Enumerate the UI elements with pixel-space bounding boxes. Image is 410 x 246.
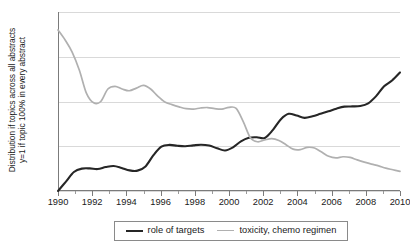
legend-entry[interactable]: toxicity, chemo regimen — [217, 226, 336, 235]
line-chart: Distribution if topics across all abstra… — [0, 0, 410, 246]
x-axis-tick-label: 2002 — [253, 198, 274, 207]
x-axis-tick — [126, 191, 127, 196]
x-axis-tick-label: 2006 — [321, 198, 342, 207]
legend-entry[interactable]: role of targets — [126, 226, 205, 235]
series-container — [58, 12, 400, 191]
y-axis-title-line-2: y=1 if topic 100% in every abstract — [17, 37, 27, 163]
x-axis-tick-minor — [144, 191, 145, 194]
legend-label: role of targets — [148, 226, 205, 235]
x-axis-tick-minor — [109, 191, 110, 194]
x-axis-tick — [161, 191, 162, 196]
x-axis-tick — [332, 191, 333, 196]
x-axis-tick-label: 1998 — [184, 198, 205, 207]
x-axis-tick — [92, 191, 93, 196]
x-axis-tick-label: 2008 — [355, 198, 376, 207]
x-axis-tick-minor — [315, 191, 316, 194]
x-axis-tick-label: 2004 — [287, 198, 308, 207]
x-axis-tick — [366, 191, 367, 196]
legend-swatch — [217, 230, 234, 231]
legend-swatch — [126, 230, 143, 232]
x-axis-tick-minor — [383, 191, 384, 194]
x-axis-tick-minor — [212, 191, 213, 194]
series-line — [58, 72, 400, 191]
x-axis-tick — [195, 191, 196, 196]
legend: role of targetstoxicity, chemo regimen — [114, 221, 348, 241]
x-axis-tick-label: 2000 — [219, 198, 240, 207]
x-axis-tick — [229, 191, 230, 196]
plot-area: 0.070.050.040.020.00 1990199219941996199… — [58, 12, 400, 191]
x-axis-tick — [297, 191, 298, 196]
x-axis-tick-minor — [280, 191, 281, 194]
x-axis-tick-label: 1994 — [116, 198, 137, 207]
y-axis-title: Distribution if topics across all abstra… — [1, 2, 33, 198]
x-axis-tick-label: 1992 — [82, 198, 103, 207]
legend-label: toxicity, chemo regimen — [239, 226, 336, 235]
x-axis-tick-minor — [349, 191, 350, 194]
x-axis-tick-label: 1990 — [48, 198, 69, 207]
x-axis-tick — [263, 191, 264, 196]
x-axis-tick-minor — [178, 191, 179, 194]
x-axis-tick-minor — [246, 191, 247, 194]
x-axis-tick-label: 1996 — [150, 198, 171, 207]
x-axis-tick — [400, 191, 401, 196]
x-axis-tick-minor — [75, 191, 76, 194]
x-axis-tick-label: 2010 — [390, 198, 410, 207]
y-axis-title-line-1: Distribution if topics across all abstra… — [7, 28, 17, 172]
